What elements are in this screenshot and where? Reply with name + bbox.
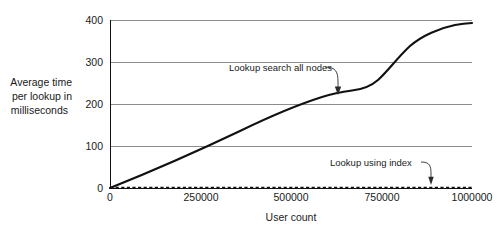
y-tick-label-0: 0 <box>97 182 103 194</box>
annotation-lookup-using-index: Lookup using index <box>330 157 434 185</box>
y-tick-label-400: 400 <box>85 14 103 26</box>
y-axis-title-line-2: per lookup in <box>12 90 72 102</box>
x-tick-label-500000: 500000 <box>273 191 308 203</box>
line-chart: 400 300 200 100 0 Average time per looku… <box>0 0 502 236</box>
x-tick-label-750000: 750000 <box>364 191 399 203</box>
y-tick-label-100: 100 <box>85 140 103 152</box>
y-axis-title-line-1: Average time <box>10 76 72 88</box>
chart-screenshot: 400 300 200 100 0 Average time per looku… <box>0 0 502 236</box>
y-axis-title-line-3: milliseconds <box>11 104 68 116</box>
x-tick-label-0: 0 <box>107 191 113 203</box>
annotation-2-label: Lookup using index <box>330 157 412 168</box>
x-tick-label-1000000: 1000000 <box>452 191 493 203</box>
annotation-2-leader <box>421 162 431 178</box>
x-axis-title: User count <box>266 211 317 223</box>
x-tick-label-250000: 250000 <box>183 191 218 203</box>
series-lookup-search-all-nodes <box>110 23 472 188</box>
y-tick-label-300: 300 <box>85 56 103 68</box>
y-axis-title: Average time per lookup in milliseconds <box>10 76 72 116</box>
y-tick-labels: 400 300 200 100 0 <box>85 14 103 194</box>
annotation-2-arrowhead-icon <box>428 177 433 185</box>
x-tick-labels: 0 250000 500000 750000 1000000 <box>107 191 493 203</box>
annotation-1-label: Lookup search all nodes <box>229 62 332 73</box>
annotation-lookup-search-all-nodes: Lookup search all nodes <box>229 62 341 95</box>
y-tick-label-200: 200 <box>85 98 103 110</box>
